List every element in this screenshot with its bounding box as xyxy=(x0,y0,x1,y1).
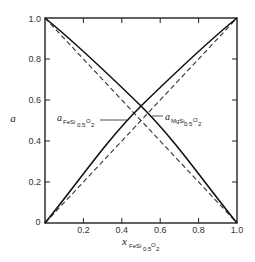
svg-text:a: a xyxy=(165,111,170,122)
svg-text:2: 2 xyxy=(198,121,202,127)
x-tick-label: 0.8 xyxy=(192,225,205,235)
x-tick-label: 0.4 xyxy=(116,225,129,235)
y-axis-ticks xyxy=(45,59,50,182)
x-axis-label: x FeSi 0.5 O 2 xyxy=(121,235,160,252)
svg-text:0.5: 0.5 xyxy=(77,122,86,128)
svg-text:x: x xyxy=(121,235,127,247)
x-tick-label: 0.6 xyxy=(154,225,167,235)
fe-curve-label: a FeSi 0.5 O 2 xyxy=(57,112,95,128)
top-ticks xyxy=(83,18,198,23)
mg-curve-label: a MgSi 0.5 O 2 xyxy=(165,111,202,127)
y-tick-label: 1.0 xyxy=(28,14,41,24)
svg-text:2: 2 xyxy=(156,246,160,252)
y-tick-label: 0.4 xyxy=(28,136,41,146)
svg-text:a: a xyxy=(57,112,62,123)
y-tick-label: 0.8 xyxy=(28,54,41,64)
svg-text:MgSi: MgSi xyxy=(171,118,185,124)
y-tick-label: 0.6 xyxy=(28,95,41,105)
svg-text:FeSi: FeSi xyxy=(129,243,141,249)
x-tick-label: 1.0 xyxy=(231,225,244,235)
y-axis-label: a xyxy=(10,112,16,124)
right-ticks xyxy=(232,59,237,182)
svg-text:2: 2 xyxy=(91,122,95,128)
svg-text:0.5: 0.5 xyxy=(184,121,193,127)
y-tick-label: 0.2 xyxy=(28,177,41,187)
x-tick-label: 0.2 xyxy=(77,225,90,235)
origin-label: 0 xyxy=(35,217,40,227)
chart: 1.0 0.8 0.6 0.4 0.2 0 0.2 0.4 0.6 0.8 1.… xyxy=(0,0,255,262)
svg-text:FeSi: FeSi xyxy=(63,119,75,125)
x-axis-ticks xyxy=(83,218,198,223)
